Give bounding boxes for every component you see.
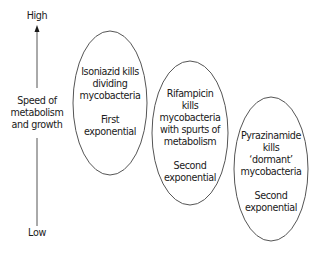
pyrazinamide-text: Pyrazinamide kills ‘dormant’ mycobacteri… — [241, 130, 302, 214]
axis-high-label: High — [27, 10, 48, 22]
ellipse-line: mycobacteria — [241, 166, 302, 178]
phase-line: exponential — [80, 126, 141, 138]
spacer — [160, 148, 221, 160]
phase-line: exponential — [160, 172, 221, 184]
phase-line: First — [80, 114, 141, 126]
ellipse-line: metabolism — [160, 136, 221, 148]
ellipse-line: mycobacteria — [160, 112, 221, 124]
ellipse-line: mycobacteria — [80, 90, 141, 102]
isoniazid-text: Isoniazid kills dividing mycobacteria Fi… — [80, 66, 141, 138]
arrowhead-up-icon — [35, 25, 40, 32]
ellipse-line: with spurts of — [160, 124, 221, 136]
axis-title-line: metabolism — [10, 107, 63, 119]
ellipse-line: Isoniazid kills — [80, 66, 141, 78]
phase-line: exponential — [241, 202, 302, 214]
ellipse-line: Pyrazinamide — [241, 130, 302, 142]
ellipse-line: dividing — [80, 78, 141, 90]
phase-line: Second — [160, 160, 221, 172]
ellipse-line: Rifampicin — [160, 88, 221, 100]
spacer — [80, 102, 141, 114]
axis-title: Speed of metabolism and growth — [10, 95, 63, 131]
ellipse-line: ‘dormant’ — [241, 154, 302, 166]
ellipse-line: kills — [160, 100, 221, 112]
rifampicin-text: Rifampicin kills mycobacteria with spurt… — [160, 88, 221, 184]
ellipse-line: kills — [241, 142, 302, 154]
axis-title-line: Speed of — [10, 95, 63, 107]
axis-title-line: and growth — [10, 119, 63, 131]
axis-low-label: Low — [28, 227, 46, 239]
phase-line: Second — [241, 190, 302, 202]
spacer — [241, 178, 302, 190]
